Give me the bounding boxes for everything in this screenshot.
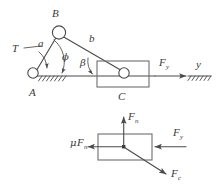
label-friction-mu: μ bbox=[70, 137, 77, 148]
angle-beta-arc bbox=[88, 58, 93, 74]
label-force-fn: F n bbox=[127, 110, 139, 125]
label-angle-beta: β bbox=[79, 57, 86, 68]
label-friction-sub: n bbox=[84, 143, 88, 151]
label-axis-y: y bbox=[195, 58, 201, 70]
label-force-fy-base: F bbox=[158, 56, 166, 68]
pivot-a-pin bbox=[28, 68, 38, 78]
label-pivot-a: A bbox=[28, 86, 36, 98]
figure-canvas: B A C a b T ϕ β F y y bbox=[0, 0, 221, 193]
label-force-fy: F y bbox=[158, 56, 170, 71]
label-slider-c: C bbox=[118, 90, 126, 102]
label-link-b: b bbox=[89, 32, 95, 44]
force-fc-arrow bbox=[125, 148, 167, 175]
mechanism-diagram: B A C a b T ϕ β F y y bbox=[12, 7, 211, 102]
label-friction-base: F bbox=[76, 136, 84, 148]
ground-hatching-right bbox=[188, 76, 211, 81]
label-torque: T bbox=[12, 42, 19, 54]
label-link-a: a bbox=[38, 37, 44, 49]
label-fy-applied-sub: y bbox=[179, 133, 184, 141]
label-force-fy-sub: y bbox=[165, 63, 170, 71]
ground-hatching-left bbox=[39, 76, 67, 81]
label-force-fy-applied: F y bbox=[172, 126, 184, 141]
mechanics-figure: B A C a b T ϕ β F y y bbox=[0, 0, 221, 193]
slider-pin bbox=[119, 68, 129, 78]
free-body-diagram: F n μ F n F y F c bbox=[70, 110, 186, 182]
label-force-fn-sub: n bbox=[135, 117, 139, 125]
label-force-friction: μ F n bbox=[70, 136, 88, 151]
label-angle-phi: ϕ bbox=[62, 51, 69, 62]
label-joint-b: B bbox=[52, 7, 59, 19]
label-fy-applied-base: F bbox=[172, 126, 180, 138]
joint-b-pin bbox=[52, 26, 65, 39]
label-fc-sub: c bbox=[178, 174, 182, 182]
label-force-fn-base: F bbox=[127, 110, 135, 122]
label-fc-base: F bbox=[170, 167, 178, 179]
label-force-fc: F c bbox=[170, 167, 182, 182]
